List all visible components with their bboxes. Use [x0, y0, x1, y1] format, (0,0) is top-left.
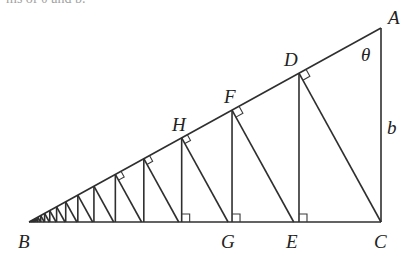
label-H: H [171, 114, 187, 135]
label-C: C [374, 231, 387, 252]
perpendicular-to-hypotenuse [182, 138, 228, 222]
perpendicular-to-hypotenuse [144, 159, 179, 222]
label-E: E [285, 231, 298, 252]
label-b: b [387, 117, 397, 138]
right-angle-mark-base [299, 214, 307, 222]
right-angle-mark-base [182, 214, 190, 222]
perpendicular-to-hypotenuse [66, 202, 77, 222]
perpendicular-to-hypotenuse [94, 186, 114, 222]
label-theta: θ [361, 44, 370, 65]
perpendicular-to-hypotenuse [232, 110, 294, 222]
diagram-lines [29, 28, 381, 222]
perpendicular-to-hypotenuse [78, 195, 93, 222]
right-angle-mark-base [232, 214, 240, 222]
label-D: D [283, 49, 298, 70]
label-A: A [386, 7, 400, 28]
label-B: B [18, 231, 30, 252]
point-labels: ABCDEFGHθb [18, 7, 400, 252]
perpendicular-to-hypotenuse [50, 211, 56, 222]
label-G: G [221, 231, 235, 252]
perpendicular-to-hypotenuse [115, 174, 141, 222]
perpendicular-to-hypotenuse [57, 207, 65, 222]
label-F: F [223, 86, 236, 107]
perpendicular-to-hypotenuse [299, 73, 381, 222]
similar-triangles-diagram: ABCDEFGHθb [0, 0, 410, 256]
